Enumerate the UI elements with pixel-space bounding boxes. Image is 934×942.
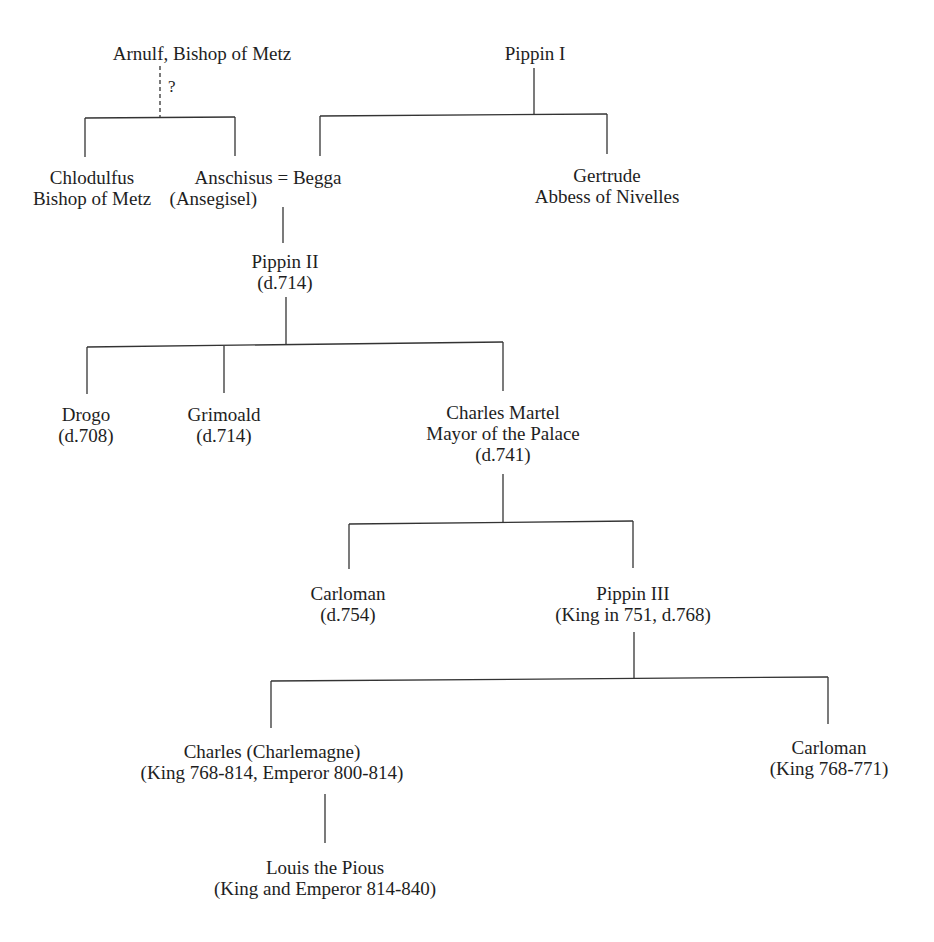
- node-name: Drogo: [58, 404, 113, 425]
- node-name: Carloman: [770, 737, 889, 758]
- node-name: Pippin III: [555, 583, 711, 604]
- node-grimoald: Grimoald (d.714): [188, 404, 261, 446]
- connector-lines: [0, 0, 934, 942]
- node-carloman-771: Carloman (King 768-771): [770, 737, 889, 779]
- node-drogo: Drogo (d.708): [58, 404, 113, 446]
- node-name: Arnulf, Bishop of Metz: [113, 43, 291, 64]
- node-name: Charles Martel: [426, 402, 580, 423]
- node-name: Grimoald: [188, 404, 261, 425]
- node-name: Charles (Charlemagne): [141, 741, 404, 762]
- node-charlemagne: Charles (Charlemagne) (King 768-814, Emp…: [141, 741, 404, 783]
- node-name: Pippin I: [505, 43, 566, 64]
- node-louis-the-pious: Louis the Pious (King and Emperor 814-84…: [214, 857, 436, 899]
- node-arnulf: Arnulf, Bishop of Metz: [113, 43, 291, 64]
- charles-martel-children-bar: [349, 521, 633, 524]
- arnulf-children-bar: [85, 117, 235, 118]
- node-dates: (d.714): [251, 272, 318, 293]
- node-name: Chlodulfus: [33, 167, 151, 188]
- node-title: Mayor of the Palace: [426, 423, 580, 444]
- node-title: Bishop of Metz: [33, 188, 151, 209]
- node-alias: (Ansegisel): [170, 188, 342, 209]
- node-name: Pippin II: [251, 251, 318, 272]
- node-dates: (d.741): [426, 444, 580, 465]
- node-dates: (d.754): [311, 604, 386, 625]
- node-title: Abbess of Nivelles: [535, 186, 680, 207]
- pippin1-children-bar: [320, 114, 607, 116]
- node-dates: (d.708): [58, 425, 113, 446]
- node-name: Louis the Pious: [214, 857, 436, 878]
- node-chlodulfus: Chlodulfus Bishop of Metz: [33, 167, 151, 209]
- node-dates: (King 768-814, Emperor 800-814): [141, 762, 404, 783]
- node-dates: (King 768-771): [770, 758, 889, 779]
- node-dates: (King in 751, d.768): [555, 604, 711, 625]
- pippin2-children-bar: [87, 342, 503, 347]
- node-name: Anschisus = Begga: [195, 167, 342, 188]
- node-pippin-ii: Pippin II (d.714): [251, 251, 318, 293]
- node-gertrude: Gertrude Abbess of Nivelles: [535, 165, 680, 207]
- node-anschisus-begga: Anschisus = Begga (Ansegisel): [195, 167, 342, 209]
- genealogy-tree: ? Arnulf, Bishop of Metz Pippin I Chlodu…: [0, 0, 934, 942]
- pippin3-children-bar: [271, 677, 828, 681]
- node-pippin-i: Pippin I: [505, 43, 566, 64]
- uncertain-marker: ?: [168, 77, 176, 97]
- node-dates: (d.714): [188, 425, 261, 446]
- node-charles-martel: Charles Martel Mayor of the Palace (d.74…: [426, 402, 580, 465]
- node-pippin-iii: Pippin III (King in 751, d.768): [555, 583, 711, 625]
- node-dates: (King and Emperor 814-840): [214, 878, 436, 899]
- node-name: Gertrude: [535, 165, 680, 186]
- node-carloman-754: Carloman (d.754): [311, 583, 386, 625]
- node-name: Carloman: [311, 583, 386, 604]
